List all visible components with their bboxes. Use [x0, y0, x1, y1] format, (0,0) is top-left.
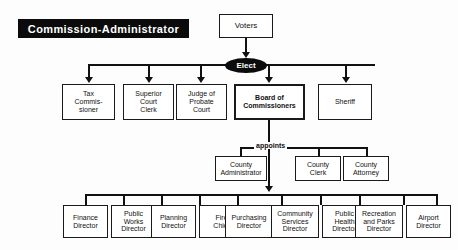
connector-dept-bar-right-end: [436, 194, 438, 205]
node-sheriff-line1: Sheriff: [335, 98, 355, 106]
node-county-attorney-line2: Attorney: [353, 169, 379, 177]
node-recreation-parks-director-line1: Recreation: [362, 210, 396, 218]
node-sheriff: Sheriff: [318, 84, 372, 120]
connector-dept-recreation-parks: [359, 194, 361, 205]
node-purchasing-director-line2: Director: [231, 222, 266, 230]
node-planning-director: Planning Director: [151, 205, 196, 238]
node-superior-court-clerk-line1: Superior: [135, 90, 161, 98]
node-judge-probate-court-line3: Court: [188, 106, 215, 114]
node-judge-probate-court-line2: Probate: [188, 98, 215, 106]
connector-dept-purchasing: [237, 194, 239, 205]
node-elect: Elect: [225, 58, 267, 73]
node-purchasing-director-line1: Purchasing: [231, 214, 266, 222]
node-public-works-director-line3: Director: [121, 225, 146, 233]
connector-dept-public-health: [320, 194, 322, 205]
node-recreation-parks-director-line3: Director: [362, 225, 396, 233]
node-tax-commissioner-line1: Tax: [75, 90, 103, 98]
chart-title-text: Commission-Administrator: [28, 23, 179, 35]
node-community-services-director-line1: Community: [277, 210, 312, 218]
connector-dept-finance: [85, 194, 87, 205]
chart-title-banner: Commission-Administrator: [18, 19, 189, 38]
node-public-health-director-line3: Director: [332, 225, 357, 233]
arrowhead-judge-probate-court: [197, 77, 205, 83]
node-elect-label: Elect: [236, 61, 255, 70]
node-airport-director: Airport Director: [406, 205, 451, 238]
arrowhead-sheriff: [342, 77, 350, 83]
node-county-clerk-line1: County: [307, 161, 329, 169]
arrowhead-board-of-commissioners: [265, 77, 273, 83]
connector-dept-community-services: [281, 194, 283, 205]
node-public-works-director: Public Works Director: [111, 205, 156, 238]
node-planning-director-line2: Director: [160, 222, 187, 230]
node-community-services-director: Community Services Director: [271, 205, 319, 238]
node-county-attorney: County Attorney: [343, 156, 389, 181]
connector-dept-airport: [403, 194, 405, 205]
arrowhead-superior-court-clerk: [145, 77, 153, 83]
connector-dept-fire: [199, 194, 201, 205]
appoints-label: appoints: [254, 142, 287, 149]
connector-dept-public-works: [123, 194, 125, 205]
node-community-services-director-line3: Director: [277, 225, 312, 233]
node-airport-director-line1: Airport: [416, 214, 441, 222]
node-county-administrator: County Administrator: [215, 156, 267, 181]
node-finance-director-line2: Director: [73, 222, 98, 230]
node-voters: Voters: [219, 14, 273, 38]
node-board-of-commissioners: Board of Commissioners: [234, 84, 305, 120]
node-county-attorney-line1: County: [353, 161, 379, 169]
arrowhead-board-to-departments: [265, 186, 273, 192]
org-chart-diagram: Commission-Administrator Voters Elect Ta…: [0, 0, 458, 250]
node-county-clerk: County Clerk: [295, 156, 341, 181]
arrowhead-tax-commissioner: [85, 77, 93, 83]
node-superior-court-clerk: Superior Court Clerk: [123, 84, 174, 120]
node-tax-commissioner-line2: Commis-: [75, 98, 103, 106]
connector-board-trunk: [268, 120, 270, 190]
distribution-bar-departments: [85, 194, 438, 196]
node-public-health-director-line1: Public: [332, 210, 357, 218]
node-superior-court-clerk-line3: Clerk: [135, 106, 161, 114]
node-judge-probate-court: Judge of Probate Court: [176, 84, 227, 120]
node-purchasing-director: Purchasing Director: [225, 205, 273, 238]
connector-dept-planning: [161, 194, 163, 205]
node-board-of-commissioners-line2: Commissioners: [243, 102, 296, 110]
node-county-administrator-line2: Administrator: [220, 169, 261, 177]
node-public-health-director-line2: Health: [332, 218, 357, 226]
node-planning-director-line1: Planning: [160, 214, 187, 222]
node-community-services-director-line2: Services: [277, 218, 312, 226]
node-judge-probate-court-line1: Judge of: [188, 90, 215, 98]
node-superior-court-clerk-line2: Court: [135, 98, 161, 106]
node-county-administrator-line1: County: [220, 161, 261, 169]
node-county-clerk-line2: Clerk: [307, 169, 329, 177]
node-finance-director: Finance Director: [63, 205, 108, 238]
node-public-works-director-line1: Public: [121, 210, 146, 218]
node-recreation-parks-director-line2: and Parks: [362, 218, 396, 226]
node-board-of-commissioners-line1: Board of: [243, 94, 296, 102]
node-airport-director-line2: Director: [416, 222, 441, 230]
node-tax-commissioner-line3: sioner: [75, 106, 103, 114]
node-voters-label: Voters: [235, 22, 258, 31]
node-public-works-director-line2: Works: [121, 218, 146, 226]
node-finance-director-line1: Finance: [73, 214, 98, 222]
node-recreation-parks-director: Recreation and Parks Director: [355, 205, 403, 238]
node-tax-commissioner: Tax Commis- sioner: [62, 84, 115, 120]
